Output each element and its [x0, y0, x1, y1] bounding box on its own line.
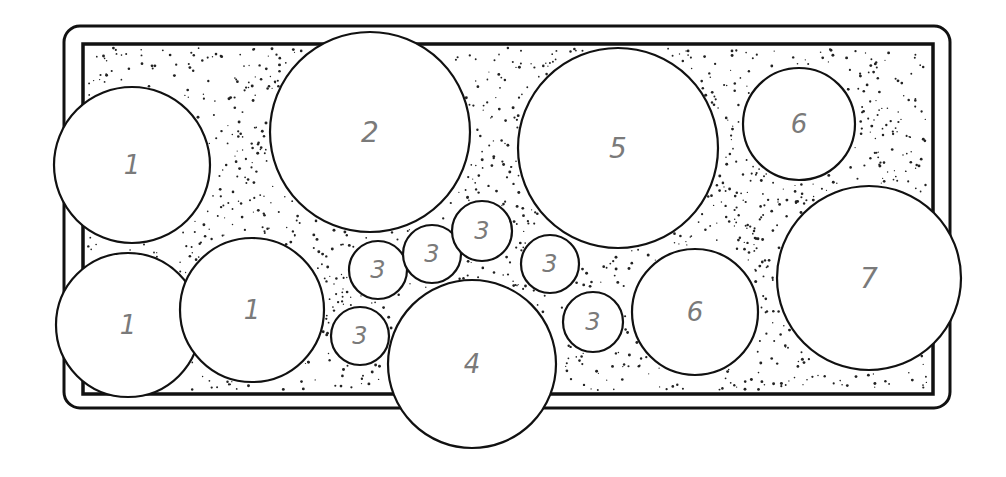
plant-p1c: 1 [180, 238, 324, 382]
plant-p3f: 3 [563, 292, 623, 352]
plant-number-label: 3 [542, 250, 557, 278]
plant-number-label: 6 [687, 297, 704, 327]
plant-p4: 4 [388, 280, 556, 448]
plant-number-label: 4 [464, 349, 481, 379]
plant-number-label: 2 [361, 116, 379, 149]
plant-number-label: 6 [791, 109, 808, 139]
planting-diagram: 111233333345667 [0, 0, 1006, 477]
plant-number-label: 3 [585, 308, 600, 336]
plant-p3a: 3 [349, 241, 407, 299]
plant-p6a: 6 [743, 68, 855, 180]
plant-p3c: 3 [452, 201, 512, 261]
plant-number-label: 3 [474, 217, 489, 245]
plant-p6b: 6 [632, 249, 758, 375]
plant-number-label: 1 [120, 310, 137, 340]
plant-p1a: 1 [54, 87, 210, 243]
plant-p2: 2 [270, 32, 470, 232]
plant-number-label: 1 [244, 295, 261, 325]
plant-number-label: 7 [860, 262, 878, 295]
plant-p3e: 3 [521, 235, 579, 293]
plant-number-label: 3 [370, 256, 385, 284]
plant-number-label: 5 [609, 132, 627, 165]
plant-number-label: 3 [424, 240, 439, 268]
plant-p3d: 3 [331, 307, 389, 365]
plant-p5: 5 [518, 48, 718, 248]
plant-number-label: 1 [124, 150, 141, 180]
plant-number-label: 3 [352, 322, 367, 350]
plant-p7: 7 [777, 186, 961, 370]
plant-p1b: 1 [56, 253, 200, 397]
